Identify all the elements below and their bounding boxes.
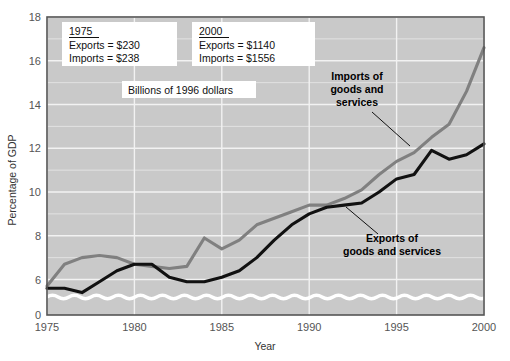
y-axis-title: Percentage of GDP bbox=[6, 134, 18, 225]
x-tick-label-1990: 1990 bbox=[297, 321, 321, 333]
callout-exports-line1: Exports of bbox=[366, 232, 418, 244]
annotation-box-1975-imports: Imports = $238 bbox=[69, 52, 139, 64]
y-axis-tick-labels: 0681012141618 bbox=[29, 11, 41, 321]
x-tick-label-1995: 1995 bbox=[384, 321, 408, 333]
callout-imports-line1: Imports of bbox=[331, 70, 383, 82]
x-tick-label-1985: 1985 bbox=[210, 321, 234, 333]
annotation-box-2000-year: 2000 bbox=[199, 25, 223, 37]
y-tick-label-6: 6 bbox=[35, 274, 41, 286]
y-tick-label-10: 10 bbox=[29, 186, 41, 198]
annotation-box-2000-imports: Imports = $1556 bbox=[199, 52, 275, 64]
callout-imports-line3: services bbox=[336, 96, 378, 108]
callout-imports-line2: goods and bbox=[330, 83, 383, 95]
x-axis-title: Year bbox=[254, 340, 276, 352]
axis-break-wavy-line bbox=[47, 295, 487, 298]
annotation-box-2000-exports: Exports = $1140 bbox=[199, 39, 275, 51]
x-tick-label-2000: 2000 bbox=[472, 321, 496, 333]
y-tick-label-14: 14 bbox=[29, 99, 41, 111]
x-axis-tick-labels: 197519801985199019952000 bbox=[35, 321, 496, 333]
x-tick-label-1975: 1975 bbox=[35, 321, 59, 333]
units-caption-text: Billions of 1996 dollars bbox=[128, 84, 233, 96]
units-caption: Billions of 1996 dollars bbox=[122, 81, 256, 98]
y-tick-label-12: 12 bbox=[29, 142, 41, 154]
chart-svg: 0681012141618 197519801985199019952000 P… bbox=[0, 0, 510, 361]
annotation-box-2000: 2000 Exports = $1140 Imports = $1556 bbox=[192, 22, 315, 66]
annotation-box-1975: 1975 Exports = $230 Imports = $238 bbox=[62, 22, 177, 66]
chart-figure: 0681012141618 197519801985199019952000 P… bbox=[0, 0, 510, 361]
y-tick-label-16: 16 bbox=[29, 55, 41, 67]
callout-exports-line2: goods and services bbox=[343, 245, 441, 257]
annotation-box-1975-exports: Exports = $230 bbox=[69, 39, 140, 51]
y-tick-label-18: 18 bbox=[29, 11, 41, 23]
y-tick-label-8: 8 bbox=[35, 230, 41, 242]
y-tick-label-0: 0 bbox=[35, 309, 41, 321]
x-tick-label-1980: 1980 bbox=[122, 321, 146, 333]
annotation-box-1975-year: 1975 bbox=[69, 25, 93, 37]
